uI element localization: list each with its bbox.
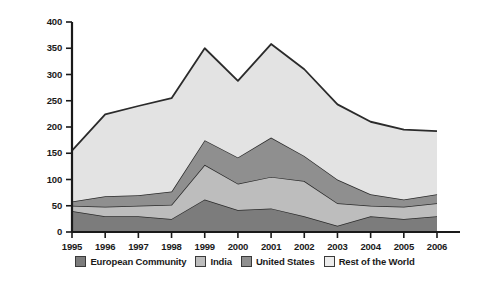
legend-swatch-icon (241, 256, 252, 267)
legend-item[interactable]: India (195, 256, 231, 267)
legend-label: European Community (90, 256, 186, 267)
x-axis-tick-label: 2006 (417, 241, 457, 252)
legend-swatch-icon (195, 256, 206, 267)
y-axis-tick-label: 100 (20, 174, 62, 185)
legend-item[interactable]: European Community (75, 256, 186, 267)
y-axis-tick-label: 400 (20, 16, 62, 27)
y-axis-tick-label: 350 (20, 42, 62, 53)
y-axis-tick-label: 200 (20, 121, 62, 132)
legend-label: India (210, 256, 231, 267)
chart-legend: European CommunityIndiaUnited StatesRest… (0, 256, 490, 267)
y-axis-tick-label: 150 (20, 147, 62, 158)
legend-label: Rest of the World (339, 256, 415, 267)
legend-item[interactable]: Rest of the World (324, 256, 415, 267)
legend-label: United States (256, 256, 315, 267)
legend-swatch-icon (75, 256, 86, 267)
y-axis-tick-label: 50 (20, 200, 62, 211)
y-axis-tick-label: 0 (20, 226, 62, 237)
legend-swatch-icon (324, 256, 335, 267)
stacked-area-chart: Number of agreements 0501001502002503003… (0, 0, 490, 292)
y-axis-tick-label: 250 (20, 95, 62, 106)
legend-item[interactable]: United States (241, 256, 315, 267)
y-axis-tick-label: 300 (20, 69, 62, 80)
area-series-group (72, 44, 437, 232)
